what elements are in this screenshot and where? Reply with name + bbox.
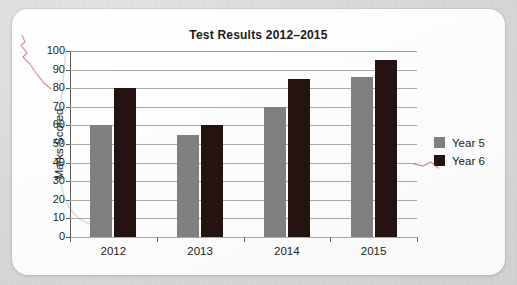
y-tick-mark-60: [66, 125, 70, 126]
bar-2014-year-5[interactable]: [264, 107, 286, 237]
y-tick-mark-10: [66, 218, 70, 219]
y-tick-label-20: 20: [25, 193, 65, 205]
y-tick-mark-80: [66, 88, 70, 89]
x-tick-mark-2012: [157, 237, 158, 242]
y-tick-mark-40: [66, 163, 70, 164]
y-tick-mark-100: [66, 51, 70, 52]
bar-2015-year-5[interactable]: [351, 77, 373, 237]
y-tick-label-90: 90: [25, 63, 65, 75]
y-tick-label-50: 50: [25, 137, 65, 149]
y-tick-label-100: 100: [25, 44, 65, 56]
bar-2015-year-6[interactable]: [375, 60, 397, 237]
y-tick-label-70: 70: [25, 100, 65, 112]
gridline-100: [70, 51, 417, 52]
y-tick-label-30: 30: [25, 174, 65, 186]
x-tick-label-2014: 2014: [257, 245, 317, 257]
bar-2012-year-5[interactable]: [90, 125, 112, 237]
gridline-90: [70, 70, 417, 71]
y-tick-mark-90: [66, 70, 70, 71]
x-tick-mark-origin: [70, 237, 71, 242]
bar-2014-year-6[interactable]: [288, 79, 310, 237]
x-tick-label-2012: 2012: [83, 245, 143, 257]
y-tick-label-60: 60: [25, 118, 65, 130]
bar-2013-year-6[interactable]: [201, 125, 223, 237]
x-tick-label-2013: 2013: [170, 245, 230, 257]
y-tick-mark-30: [66, 181, 70, 182]
x-tick-label-2015: 2015: [344, 245, 404, 257]
legend-item-year-6[interactable]: Year 6: [434, 152, 504, 169]
legend-label: Year 6: [452, 155, 485, 167]
legend-swatch-icon: [434, 137, 445, 148]
y-tick-label-80: 80: [25, 81, 65, 93]
legend-item-year-5[interactable]: Year 5: [434, 134, 504, 151]
x-tick-mark-2013: [244, 237, 245, 242]
bar-chart: Test Results 2012–2015 Marks Scored 1009…: [12, 9, 505, 275]
x-tick-mark-2014: [330, 237, 331, 242]
y-tick-mark-20: [66, 200, 70, 201]
y-tick-mark-50: [66, 144, 70, 145]
y-tick-label-10: 10: [25, 211, 65, 223]
legend-label: Year 5: [452, 137, 485, 149]
x-tick-mark-2015: [417, 237, 418, 242]
y-tick-label-0: 0: [25, 230, 65, 242]
bar-2012-year-6[interactable]: [114, 88, 136, 237]
plot-area: Marks Scored 100908070605040302010020122…: [70, 51, 417, 237]
legend-swatch-icon: [434, 155, 445, 166]
chart-title: Test Results 2012–2015: [12, 28, 505, 42]
bar-2013-year-5[interactable]: [177, 135, 199, 237]
y-tick-label-40: 40: [25, 156, 65, 168]
chart-legend: Year 5Year 6: [434, 134, 504, 170]
y-tick-mark-70: [66, 107, 70, 108]
